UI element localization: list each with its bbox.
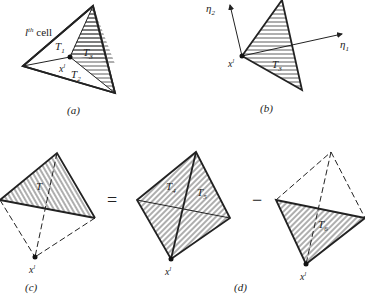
label-xl-b: xl: [227, 58, 234, 69]
panel-d-right: T6 xl (d): [234, 152, 365, 294]
panel-d-left: T4 T5 xl: [137, 152, 230, 277]
label-eta2: η2: [206, 2, 215, 17]
label-t1: T1: [55, 40, 65, 55]
label-t-c: T: [36, 180, 43, 192]
label-xl: xl: [58, 63, 65, 74]
point-xl: [68, 55, 73, 60]
panel-a: lth cell T1 T3 T2 xl (a): [23, 6, 115, 117]
panel-b: η1 η2 T3 xl (b): [206, 0, 349, 115]
caption-c: (c): [25, 281, 38, 294]
caption-d: (d): [234, 281, 247, 294]
label-eta1: η1: [340, 38, 349, 53]
figure-canvas: lth cell T1 T3 T2 xl (a) η1 η2 T3 xl (b)…: [0, 0, 365, 302]
axis-eta2: [230, 5, 242, 56]
cell-label: lth cell: [25, 26, 52, 38]
point-xl-c: [33, 255, 38, 260]
point-xl-b: [240, 54, 245, 59]
caption-b: (b): [260, 102, 273, 115]
label-xl-c: xl: [28, 264, 35, 275]
point-xl-d1: [169, 257, 174, 262]
equals-sign: =: [107, 190, 117, 210]
caption-a: (a): [67, 104, 80, 117]
minus-sign: −: [252, 190, 262, 210]
label-xl-d2: xl: [299, 271, 306, 282]
panel-c: T xl (c): [0, 153, 95, 294]
label-xl-d1: xl: [164, 266, 171, 277]
point-xl-d2: [304, 262, 309, 267]
